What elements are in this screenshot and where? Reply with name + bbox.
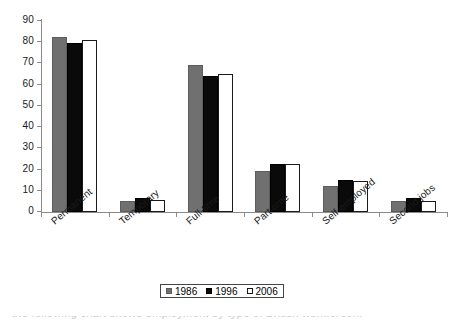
y-axis-tick-label: 70 <box>22 56 34 67</box>
y-axis-tick-label: 60 <box>22 78 34 89</box>
bar-chart-figure: 9080706050403020100 PermanentTemporaryFu… <box>0 0 454 325</box>
legend-swatch-1986 <box>166 288 172 294</box>
bar-group <box>52 21 97 212</box>
bar-1986-full-time <box>188 65 203 212</box>
y-axis-tick-label: 10 <box>22 184 34 195</box>
bar-1996-full-time <box>203 76 218 212</box>
x-axis-tick-mark <box>109 212 110 217</box>
legend-swatch-2006 <box>247 288 253 294</box>
y-axis-tick-label: 0 <box>28 205 34 216</box>
clipped-caption: the following chart shows employment by … <box>0 316 454 325</box>
caption-text: the following chart shows employment by … <box>12 316 363 320</box>
x-axis-tick-mark <box>447 212 448 217</box>
bar-2006-full-time <box>218 74 233 212</box>
legend-entry-1986: 1986 <box>166 286 197 297</box>
legend-entry-1996: 1996 <box>206 286 237 297</box>
y-axis-tick-label: 30 <box>22 141 34 152</box>
legend-swatch-1996 <box>206 288 212 294</box>
bar-group <box>188 21 233 212</box>
plot-area <box>41 21 447 212</box>
y-axis-tick-label: 40 <box>22 120 34 131</box>
x-axis-tick-mark <box>41 212 42 217</box>
y-axis-tick-label: 90 <box>22 14 34 25</box>
legend-label: 1996 <box>215 286 237 297</box>
bar-group <box>255 21 300 212</box>
bar-2006-part-time <box>285 164 300 212</box>
chart-legend: 198619962006 <box>160 284 284 298</box>
legend-entry-2006: 2006 <box>247 286 278 297</box>
y-axis-tick-label: 20 <box>22 163 34 174</box>
bar-1986-permanent <box>52 37 67 212</box>
y-axis-tick-label: 50 <box>22 99 34 110</box>
x-axis-tick-mark <box>312 212 313 217</box>
bar-group <box>120 21 165 212</box>
x-axis-tick-mark <box>244 212 245 217</box>
legend-label: 1986 <box>175 286 197 297</box>
bar-2006-permanent <box>82 40 97 212</box>
x-axis-tick-mark <box>176 212 177 217</box>
bar-1996-permanent <box>67 43 82 212</box>
x-axis-tick-mark <box>379 212 380 217</box>
y-axis-tick-label: 80 <box>22 35 34 46</box>
bar-2006-second-jobs <box>421 201 436 212</box>
legend-label: 2006 <box>256 286 278 297</box>
